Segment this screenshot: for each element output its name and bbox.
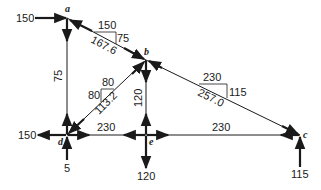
force-label-be: 120 bbox=[132, 89, 144, 107]
force-label-de: 230 bbox=[97, 121, 115, 133]
load-label-a: 150 bbox=[16, 12, 34, 24]
slope-run-bc: 230 bbox=[203, 71, 221, 83]
node-label-a: a bbox=[65, 3, 70, 14]
arrow-bc-at-b bbox=[149, 61, 162, 68]
force-arrows bbox=[35, 18, 300, 168]
load-label-e-vertical: 120 bbox=[137, 170, 155, 182]
slope-rise-ab: 75 bbox=[117, 32, 129, 44]
slope-run-ab: 150 bbox=[98, 19, 116, 31]
arrow-ab-at-a bbox=[70, 20, 92, 31]
force-label-bc: 257.0 bbox=[196, 86, 226, 109]
node-label-d: d bbox=[58, 136, 64, 147]
arrow-ab-at-b bbox=[124, 48, 144, 59]
load-label-d-horizontal: 150 bbox=[18, 129, 36, 141]
force-label-ad: 75 bbox=[52, 70, 64, 82]
arrow-db-at-d bbox=[69, 119, 84, 133]
slope-run-db: 80 bbox=[102, 76, 114, 88]
load-label-d-vertical: 5 bbox=[64, 162, 70, 174]
load-label-c-vertical: 115 bbox=[291, 168, 309, 180]
force-label-ec: 230 bbox=[212, 121, 230, 133]
arrow-bc-at-c bbox=[282, 126, 298, 134]
node-label-b: b bbox=[144, 46, 149, 57]
slope-rise-bc: 115 bbox=[229, 86, 247, 98]
truss-diagram: a b c d e 150 150 5 120 115 150 75 230 1… bbox=[0, 0, 321, 190]
arrow-db-at-b bbox=[132, 62, 144, 74]
node-label-e: e bbox=[149, 136, 154, 147]
node-label-c: c bbox=[303, 129, 308, 140]
slope-rise-db: 80 bbox=[88, 89, 100, 101]
force-label-ab: 167.6 bbox=[89, 33, 119, 57]
